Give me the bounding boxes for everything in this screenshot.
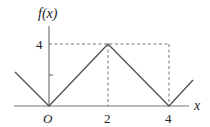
- x-tick-label-2: 2: [104, 111, 111, 126]
- function-curve: [15, 44, 193, 106]
- x-tick-label-4: 4: [165, 111, 172, 126]
- y-tick-label-4: 4: [36, 37, 43, 52]
- x-axis-label: x: [193, 98, 201, 113]
- y-axis-label: f(x): [38, 6, 58, 22]
- function-graph: f(x) 4 O 2 4 x: [0, 0, 210, 127]
- origin-label: O: [43, 111, 53, 126]
